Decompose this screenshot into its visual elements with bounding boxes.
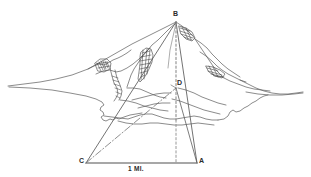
hachure-crag-left xyxy=(96,61,110,71)
spur-left-b xyxy=(115,70,122,100)
slope-right-lower xyxy=(222,77,270,91)
horizon-left-ridge xyxy=(8,22,176,86)
mountain-triangulation-figure: B C A D 1 MI. xyxy=(0,0,311,177)
hachure-summit-rock xyxy=(180,27,193,40)
tick-d-left xyxy=(171,85,176,88)
line-CD-dashdot xyxy=(86,88,176,163)
spur-left xyxy=(110,68,118,101)
line-AD xyxy=(176,88,197,163)
mountain-line-art xyxy=(8,22,303,125)
baseline-measure-label: 1 MI. xyxy=(128,166,144,173)
figure-canvas xyxy=(0,0,311,177)
slope-right-foot xyxy=(240,80,303,94)
line-AB xyxy=(176,22,197,163)
vertex-label-d: D xyxy=(177,79,182,86)
vertex-label-b: B xyxy=(173,10,178,17)
vertex-label-c: C xyxy=(79,157,84,164)
plateau-ridge xyxy=(104,114,218,120)
line-CB xyxy=(86,22,176,163)
contour-right-interior xyxy=(178,88,226,105)
massif-left-face xyxy=(127,23,176,87)
foothill-right-edge xyxy=(218,95,268,120)
triangulation-lines xyxy=(86,22,197,163)
summit-ridge-inner xyxy=(168,23,176,68)
vertex-label-a: A xyxy=(199,157,204,164)
contour-mid-left-b xyxy=(120,100,168,111)
